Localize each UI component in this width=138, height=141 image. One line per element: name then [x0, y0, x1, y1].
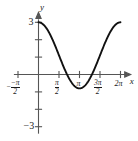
x-tick-label-2pi: 2π — [114, 80, 122, 88]
fraction: 3π2 — [94, 79, 102, 95]
fraction-numerator: π — [55, 79, 59, 87]
x-tick-label-pi-over-2: π2 — [55, 79, 59, 95]
fraction: π2 — [55, 79, 59, 95]
x-axis-label: x — [130, 77, 134, 86]
y-axis-label: y — [40, 3, 44, 12]
fraction: −π2 — [11, 79, 20, 95]
fraction-denominator: 2 — [94, 87, 102, 96]
y-tick-label-neg3: −3 — [24, 121, 35, 131]
fraction-numerator: −π — [11, 79, 20, 87]
plot-canvas — [0, 0, 138, 141]
y-tick-label-3: 3 — [29, 17, 34, 27]
x-tick-label-pi: π — [76, 80, 80, 88]
fraction-numerator: 3π — [94, 79, 102, 87]
graph-figure: y x 3 −3 −−π2 π2 π 3π2 2π — [0, 0, 138, 141]
axes-group — [14, 12, 131, 133]
x-tick-label-3pi-over-2: 3π2 — [94, 79, 102, 95]
x-tick-label-neg-pi-over-2: −−π2 — [7, 79, 20, 95]
y-axis-arrow — [36, 12, 41, 18]
fraction-denominator: 2 — [11, 87, 20, 96]
fraction-denominator: 2 — [55, 87, 59, 96]
